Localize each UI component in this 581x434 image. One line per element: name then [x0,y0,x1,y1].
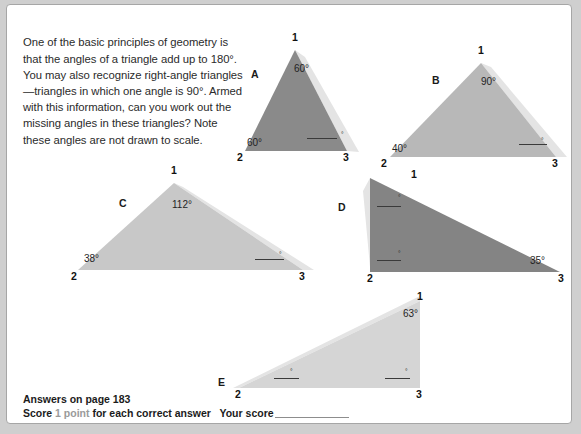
angle-value-b-0: 90° [481,76,496,87]
vertex-label-e-2: 2 [235,388,241,400]
angle-value-d-0: 35° [530,255,545,266]
triangle-c [78,183,303,270]
angle-value-a-1: 60° [247,137,262,148]
intro-paragraph: One of the basic principles of geometry … [23,34,245,147]
angle-value-e-0: 63° [403,308,418,319]
vertex-label-e-3: 3 [416,388,422,400]
degree-symbol-a-0: ° [341,132,344,139]
triangle-e-shadow [233,296,420,388]
vertex-label-d-1: 1 [411,168,417,180]
answer-blank-d-0[interactable] [377,205,401,207]
vertex-label-c-3: 3 [299,270,305,282]
answers-page-note: Answers on page 183 [23,393,130,405]
vertex-label-b-1: 1 [478,44,484,56]
answer-blank-d-1[interactable] [377,259,401,261]
your-score-label: Your score [219,407,273,419]
degree-symbol-b-0: ° [541,138,544,145]
degree-symbol-c-0: ° [279,252,282,259]
angle-value-b-1: 40° [392,143,407,154]
angle-value-a-0: 60° [294,63,309,74]
triangle-d-shadow [363,178,370,267]
worksheet-page: One of the basic principles of geometry … [6,4,572,424]
degree-symbol-d-1: ° [398,251,401,258]
score-points-value: 1 point [55,407,89,419]
your-score-input-blank[interactable] [275,407,349,418]
figure-label-d: D [338,201,346,213]
angle-value-c-0: 112° [172,199,192,210]
vertex-label-a-1: 1 [292,31,298,43]
figure-label-a: A [251,68,259,80]
vertex-label-a-3: 3 [343,151,349,163]
triangle-e [239,301,420,388]
figure-label-c: C [119,197,127,209]
score-line: Score 1 point for each correct answer Yo… [23,407,349,419]
degree-symbol-e-1: ° [405,369,408,376]
figure-label-e: E [218,376,225,388]
vertex-label-c-2: 2 [71,270,77,282]
answer-blank-a-0[interactable] [307,137,337,139]
triangle-c-shadow [174,183,314,270]
degree-symbol-d-0: ° [398,195,401,202]
answer-blank-e-1[interactable] [385,377,410,379]
vertex-label-b-3: 3 [552,157,558,169]
score-prefix-label: Score [23,407,52,419]
vertex-label-a-2: 2 [237,151,243,163]
score-suffix-label: for each correct answer [92,407,210,419]
vertex-label-d-3: 3 [558,272,564,284]
vertex-label-d-2: 2 [367,272,373,284]
degree-symbol-e-0: ° [290,369,293,376]
angle-value-c-1: 38° [84,253,99,264]
figure-label-b: B [432,74,440,86]
vertex-label-c-1: 1 [171,164,177,176]
answer-blank-e-0[interactable] [274,377,299,379]
vertex-label-b-2: 2 [381,157,387,169]
vertex-label-e-1: 1 [417,290,423,302]
